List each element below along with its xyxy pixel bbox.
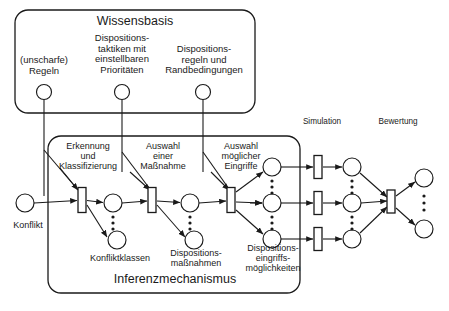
arc-konflikt-to-t1 (34, 201, 77, 204)
t-sim-mitte (314, 192, 322, 215)
t-auswahl-eingriffe (227, 188, 235, 213)
p-konfliktklasse-n (108, 231, 126, 249)
arc-sim-unten-to-tbew (360, 207, 387, 233)
p-konfliktklasse-1 (104, 194, 122, 212)
arc-kk1-to-t2 (122, 201, 147, 203)
arc-t2-to-m1 (157, 201, 180, 203)
dot (188, 227, 191, 230)
dot (270, 185, 273, 188)
transition-label-auswahl-eingriffe: Auswahl möglicher Eingriffe (206, 141, 276, 171)
t-auswahl-massnahme (148, 188, 156, 213)
kb-label-taktiken: Dispositions- taktiken mit einstellbaren… (80, 33, 164, 76)
dot (350, 221, 353, 224)
arc-t2-to-mn (157, 205, 185, 237)
transition-label-auswahl-massnahme: Auswahl einer Maßnahme (128, 141, 198, 171)
inferenzmechanismus-title: Inferenzmechanismus (70, 272, 280, 286)
dot (422, 194, 425, 197)
section-label-simulation: Simulation (292, 117, 352, 126)
dot (350, 185, 353, 188)
kb-label-dispositionsregeln: Dispositions- regeln und Randbedingungen (155, 44, 253, 76)
arc-tbew-to-bew-oben (396, 182, 415, 196)
dot (188, 215, 191, 218)
transition-label-erkennung: Erkennung und Klassifizierung (46, 141, 130, 171)
dot (350, 215, 353, 218)
dot (422, 201, 425, 204)
arc-sim-mitte-to-tbew (361, 201, 387, 203)
dot (350, 227, 353, 230)
arc-m1-to-t3 (199, 201, 226, 203)
arc-tbew-to-bew-unten (396, 208, 415, 225)
p-konflikt (16, 194, 34, 212)
kb-place-regeln (37, 85, 52, 100)
t-erkennung (78, 188, 86, 213)
arc-sim-oben-to-tbew (360, 173, 387, 197)
p-eingriff-mitte (263, 194, 281, 212)
dot (270, 179, 273, 182)
p-massnahme-1 (181, 194, 199, 212)
dot (422, 208, 425, 211)
p-massnahme-n (185, 231, 203, 249)
dot (270, 221, 273, 224)
p-sim-mitte (343, 194, 361, 212)
t-bewertung (387, 190, 395, 213)
p-sim-oben (343, 158, 361, 176)
place-label-konflikt: Konflikt (0, 220, 56, 230)
p-sim-unten (343, 230, 361, 248)
section-label-bewertung: Bewertung (368, 117, 428, 126)
knowledge-base-places (37, 85, 211, 100)
dot (188, 221, 191, 224)
dot (270, 227, 273, 230)
dot (350, 179, 353, 182)
kb-place-taktiken (115, 85, 130, 100)
arc-t3-to-e-unten (236, 210, 263, 234)
wissensbasis-title: Wissensbasis (0, 14, 270, 28)
dot (270, 215, 273, 218)
dot (111, 221, 114, 224)
p-bewertung-oben (415, 169, 433, 187)
place-label-dispositionsmassnahmen: Dispositions- maßnahmen (159, 248, 233, 268)
dot (111, 227, 114, 230)
t-sim-oben (314, 156, 322, 179)
arc-t3-to-e-oben (236, 172, 263, 192)
arc-kkn-to-t2 (126, 210, 150, 237)
dot (350, 191, 353, 194)
dot (270, 191, 273, 194)
diagram-root: Wissensbasis Inferenzmechanismus Simulat… (0, 0, 449, 311)
t-sim-unten (314, 228, 322, 251)
dot (111, 215, 114, 218)
kb-place-dispositionsregeln (196, 85, 211, 100)
place-label-dispositionseingriffe: Dispositions- eingriffs- möglichkeiten (234, 243, 312, 273)
arc-t1-to-kk1 (87, 201, 103, 203)
arc-t1-to-kkn (87, 205, 107, 237)
place-label-konfliktklassen: Konfliktklassen (77, 253, 163, 263)
kb-label-regeln: (unscharfe) Regeln (4, 55, 84, 76)
p-bewertung-unten (415, 220, 433, 238)
